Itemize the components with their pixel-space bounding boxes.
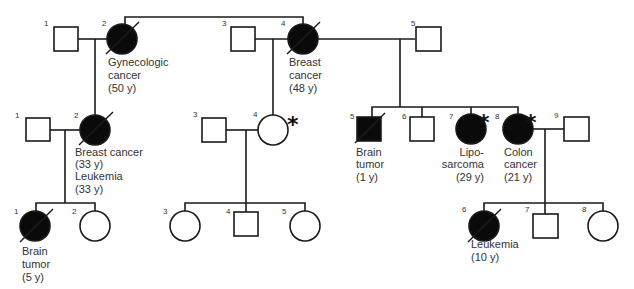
age-label: (10 y) <box>471 251 499 263</box>
diagnosis-label: Brain <box>356 146 382 158</box>
id-number: 3 <box>222 19 227 28</box>
diagnosis-label: cancer <box>289 69 322 81</box>
diagnosis-label: Colon <box>504 146 533 158</box>
id-number: 2 <box>102 19 107 28</box>
age-label: (29 y) <box>456 171 484 183</box>
male-symbol-II1[interactable] <box>26 118 50 141</box>
male-symbol-III4[interactable] <box>234 212 258 236</box>
id-number: 1 <box>14 207 19 216</box>
male-symbol-I5[interactable] <box>416 27 441 51</box>
diagnosis-label: Brain <box>22 245 48 257</box>
asterisk-marker-icon: * <box>478 110 490 135</box>
diagnosis-label: cancer <box>108 69 141 81</box>
male-symbol-II9[interactable] <box>564 117 589 141</box>
diagnosis-label: Breast <box>289 56 321 68</box>
pedigree-diagram: 1 2 Gynecologic cancer (50 y) 3 4 Breast… <box>0 0 634 289</box>
id-number: 2 <box>72 207 77 216</box>
generation-2: 1 2 Breast cancer (33 y) Leukemia (33 y)… <box>15 110 589 195</box>
female-symbol-III8[interactable] <box>588 211 618 241</box>
id-number: 8 <box>582 205 587 214</box>
diagnosis-label: Leukemia <box>471 238 520 250</box>
female-symbol-III2[interactable] <box>80 211 110 241</box>
id-number: 4 <box>253 110 258 119</box>
male-symbol-II3[interactable] <box>202 118 226 142</box>
age-label: (33 y) <box>75 183 103 195</box>
id-number: 1 <box>44 19 49 28</box>
diagnosis-label: tumor <box>356 158 384 170</box>
female-symbol-III5[interactable] <box>290 211 320 241</box>
diagnosis-label: cancer <box>504 158 537 170</box>
age-label: (50 y) <box>108 82 136 94</box>
male-symbol-I1[interactable] <box>54 27 78 51</box>
diagnosis-label: Breast cancer <box>75 146 143 158</box>
id-number: 5 <box>350 112 355 121</box>
female-symbol-III3[interactable] <box>170 211 200 241</box>
diagnosis-label: Gynecologic <box>108 56 169 68</box>
id-number: 4 <box>226 207 231 216</box>
generation-1: 1 2 Gynecologic cancer (50 y) 3 4 Breast… <box>44 19 441 94</box>
sibship-line-III-left <box>36 203 95 211</box>
id-number: 9 <box>554 111 559 120</box>
sibship-line-gen1 <box>125 17 303 24</box>
id-number: 7 <box>449 112 454 121</box>
age-label: (1 y) <box>356 171 378 183</box>
id-number: 3 <box>193 110 198 119</box>
male-symbol-II6[interactable] <box>410 117 434 141</box>
age-label: (21 y) <box>504 171 532 183</box>
age-label: (33 y) <box>75 158 103 170</box>
id-number: 4 <box>281 19 286 28</box>
asterisk-marker-icon: * <box>525 110 537 135</box>
id-number: 6 <box>462 205 467 214</box>
diagnosis-label: tumor <box>22 258 50 270</box>
male-symbol-I3[interactable] <box>231 27 255 51</box>
generation-3: 1 Brain tumor (5 y) 2 3 4 5 6 Leukemia (… <box>14 205 618 283</box>
id-number: 6 <box>402 112 407 121</box>
diagnosis-label: Leukemia <box>75 170 124 182</box>
id-number: 3 <box>163 207 168 216</box>
female-affected-symbol-III1[interactable] <box>20 211 50 241</box>
female-symbol-II4[interactable] <box>258 115 288 145</box>
age-label: (48 y) <box>289 82 317 94</box>
sibship-line-III-middle <box>185 203 305 211</box>
male-symbol-III7[interactable] <box>533 214 558 238</box>
id-number: 7 <box>525 205 530 214</box>
id-number: 5 <box>282 207 287 216</box>
id-number: 2 <box>74 111 79 120</box>
diagnosis-label: Lipo- <box>460 146 485 158</box>
asterisk-marker-icon: * <box>287 112 299 137</box>
age-label: (5 y) <box>22 271 44 283</box>
diagnosis-label: sarcoma <box>442 158 485 170</box>
id-number: 8 <box>495 112 500 121</box>
id-number: 1 <box>15 111 20 120</box>
